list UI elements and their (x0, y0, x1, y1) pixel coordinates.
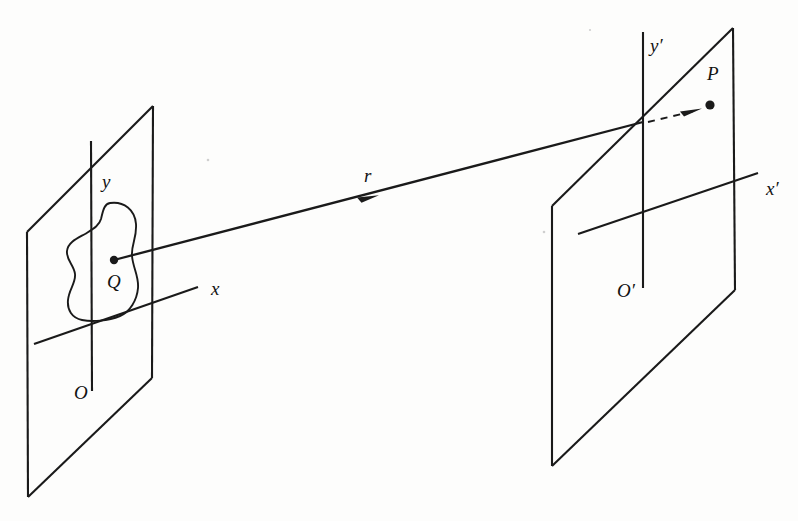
label-x-axis-left: x (210, 278, 220, 299)
field-plane-bottom-edge (552, 290, 735, 466)
vector-r-line (114, 122, 643, 260)
field-point-dot (705, 100, 714, 109)
scan-speck (589, 29, 591, 31)
source-point-dot (110, 256, 118, 264)
label-y-axis-right: y′ (648, 35, 663, 56)
figure-container: y x O Q r y′ x′ O′ P (0, 0, 798, 521)
source-plane-left-edge (27, 232, 28, 497)
field-direction-arrowhead (680, 109, 702, 117)
label-x-axis-right: x′ (765, 178, 779, 199)
label-origin-right: O′ (617, 280, 636, 301)
field-plane-right-edge (733, 28, 735, 290)
source-plane-top-edge (27, 106, 153, 232)
label-origin-left: O (74, 382, 88, 403)
x-axis-left (34, 287, 198, 344)
label-source-point: Q (107, 271, 121, 292)
label-vector-r: r (364, 165, 372, 186)
label-y-axis-left: y (100, 171, 111, 192)
source-plane-right-edge (152, 106, 153, 378)
label-field-point: P (706, 63, 719, 84)
x-axis-right (578, 173, 758, 234)
scan-speck (207, 159, 210, 162)
source-plane-bottom-edge (28, 378, 152, 497)
scan-speck (543, 231, 546, 234)
source-region-blob (67, 203, 138, 321)
y-axis-left (91, 141, 92, 391)
physics-diagram: y x O Q r y′ x′ O′ P (0, 0, 798, 521)
